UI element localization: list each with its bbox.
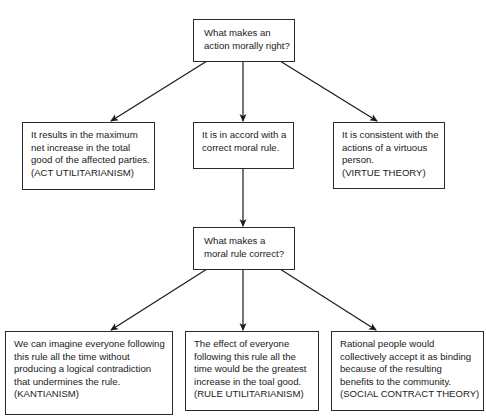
node-text-line: We can imagine everyone following <box>14 338 164 351</box>
arrow-root-to-act-utilitarianism <box>111 61 207 121</box>
node-text-line: good of the affected parties. <box>31 154 146 167</box>
node-text-line: person. <box>342 154 436 167</box>
root-question-box: What makes an action morally right? <box>193 19 295 62</box>
node-text-line: actions of a virtuous <box>342 142 436 155</box>
theory-label: (VIRTUE THEORY) <box>342 167 436 180</box>
theory-label: (ACT UTILITARIANISM) <box>31 167 146 180</box>
node-text-line: correct moral rule. <box>202 142 285 155</box>
node-text-line: that undermines the rule. <box>14 376 164 389</box>
node-text-line: because of the resulting <box>340 363 475 376</box>
rule-question-box: What makes a moral rule correct? <box>193 227 295 270</box>
node-text-line: Rational people would <box>340 338 475 351</box>
arrow-root-to-virtue-theory <box>280 61 377 121</box>
arrow-rule-question-to-social-contract <box>280 269 376 330</box>
social-contract-box: Rational people would collectively accep… <box>331 331 484 411</box>
node-text-line: collectively accept it as binding <box>340 351 475 364</box>
node-text-line: It is in accord with a <box>202 129 285 142</box>
node-text-line: action morally right? <box>204 39 284 52</box>
moral-rule-box: It is in accord with a correct moral rul… <box>193 122 294 169</box>
node-text-line: What makes a <box>204 234 284 247</box>
act-utilitarianism-box: It results in the maximum net increase i… <box>22 122 155 190</box>
kantianism-box: We can imagine everyone following this r… <box>5 331 173 415</box>
node-text-line: benefits to the community. <box>340 376 475 389</box>
node-text-line: moral rule correct? <box>204 247 284 260</box>
node-text-line: time would be the greatest <box>194 363 310 376</box>
node-text-line: producing a logical contradiction <box>14 363 164 376</box>
node-text-line: What makes an <box>204 26 284 39</box>
rule-utilitarianism-box: The effect of everyone following this ru… <box>185 331 319 411</box>
virtue-theory-box: It is consistent with the actions of a v… <box>333 122 445 189</box>
arrow-rule-question-to-kantianism <box>111 269 207 330</box>
theory-label: (SOCIAL CONTRACT THEORY) <box>340 388 475 401</box>
node-text-line: The effect of everyone <box>194 338 310 351</box>
theory-label: (RULE UTILITARIANISM) <box>194 388 310 401</box>
node-text-line: It is consistent with the <box>342 129 436 142</box>
node-text-line: following this rule all the <box>194 351 310 364</box>
node-text-line: It results in the maximum <box>31 129 146 142</box>
node-text-line: this rule all the time without <box>14 351 164 364</box>
theory-label: (KANTIANISM) <box>14 388 164 401</box>
node-text-line: net increase in the total <box>31 142 146 155</box>
node-text-line: increase in the toal good. <box>194 376 310 389</box>
